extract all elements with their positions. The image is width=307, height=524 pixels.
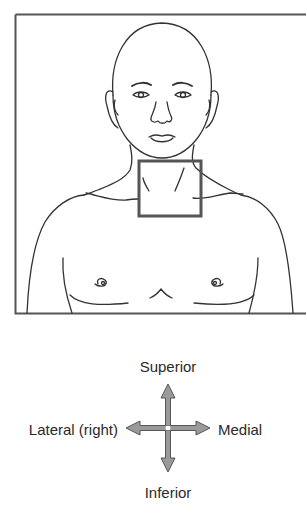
inferior-label: Inferior [0,484,306,502]
medial-label: Medial [218,421,262,439]
jaw-outline [113,95,211,158]
body-outline-illustration [0,0,306,320]
chest-right-edge [249,258,258,313]
left-shoulder [27,195,84,313]
right-eyebrow [173,83,192,86]
right-ear [206,91,218,128]
anatomy-figure [0,0,306,320]
lateral-label: Lateral (right) [29,421,118,439]
chest-left-edge [63,258,72,313]
body-lines [27,23,293,313]
highlight-box [139,161,201,216]
pectoral-right [194,295,254,304]
clavicle-left [86,193,138,200]
left-eyebrow [132,83,151,86]
left-ear [106,91,118,128]
head-outline-top [113,23,212,95]
figure-frame [16,15,307,314]
neck-muscle-right [175,168,184,191]
pectoral-left [70,295,128,304]
sternum-notch [150,289,172,298]
direction-compass: Superior Lateral (right) Medial Inferior [0,340,306,524]
superior-label: Superior [0,358,306,376]
neck-muscle-left [143,178,149,191]
lower-lip [151,138,173,142]
neck-left [84,145,132,195]
right-shoulder [241,195,293,313]
nose [151,102,172,123]
upper-lip [149,135,175,137]
